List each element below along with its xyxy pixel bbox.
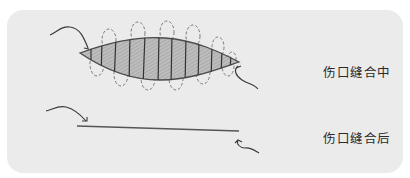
thread-out-arrow-icon: [235, 140, 259, 153]
open-wound: [50, 21, 258, 90]
closed-incision-line: [77, 126, 239, 131]
thread-in-arrow-icon: [46, 107, 87, 121]
stage-label-after: 伤口缝合后: [323, 128, 391, 147]
stage-label-during: 伤口缝合中: [323, 62, 391, 81]
thread-out-arrow-icon: [235, 66, 258, 89]
thread-in-arrow-icon: [50, 27, 89, 49]
closed-wound: [46, 107, 259, 153]
suture-illustration: [0, 0, 410, 178]
